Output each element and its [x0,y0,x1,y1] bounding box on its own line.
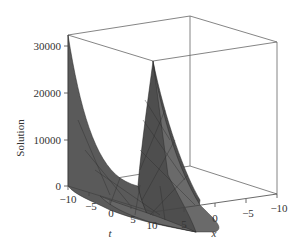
t-tick-10: 10 [147,219,159,231]
z-axis-label: Solution [14,119,26,157]
x-tick-m10: −10 [270,202,288,214]
x-tick-5: 5 [181,218,187,230]
t-tick-0: 0 [108,207,114,219]
t-tick-m10: −10 [59,193,77,205]
t-axis-label: t [108,227,112,239]
z-tick-20000: 20000 [34,87,62,99]
z-tick-10000: 10000 [34,134,62,146]
x-tick-m5: −5 [242,207,254,219]
x-axis-label: x [211,227,217,239]
surface-plot: 30000 20000 10000 0 Solution −10 −5 0 5 … [0,0,297,250]
z-tick-30000: 30000 [34,40,62,52]
t-tick-5: 5 [130,213,136,225]
z-tick-0: 0 [56,180,62,192]
x-tick-0: 0 [212,212,218,224]
t-tick-m5: −5 [85,200,97,212]
